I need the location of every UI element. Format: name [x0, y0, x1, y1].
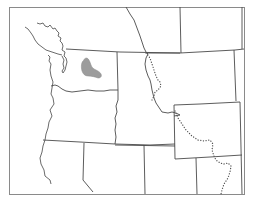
species-range-area	[81, 58, 101, 78]
border-or-ca-nv	[43, 140, 175, 145]
border-wy-south	[175, 155, 242, 159]
border-wa-or	[51, 85, 118, 92]
border-id-ut	[115, 145, 175, 146]
border-id-mt	[126, 7, 180, 116]
border-wa-bc	[66, 49, 180, 53]
continental-divide	[146, 53, 231, 194]
border-nv-ut	[144, 145, 145, 194]
map-frame	[10, 8, 245, 195]
border-or-id	[115, 90, 118, 144]
border-wy-east	[240, 102, 242, 194]
range-map	[0, 0, 253, 202]
border-wy-north	[174, 102, 240, 105]
border-mt-tick	[234, 50, 236, 101]
coastline	[25, 23, 67, 184]
border-mt-ab	[180, 7, 181, 53]
border-ca-nv	[83, 143, 93, 192]
border-ut-co	[196, 158, 197, 194]
border-wa-id	[117, 52, 118, 90]
